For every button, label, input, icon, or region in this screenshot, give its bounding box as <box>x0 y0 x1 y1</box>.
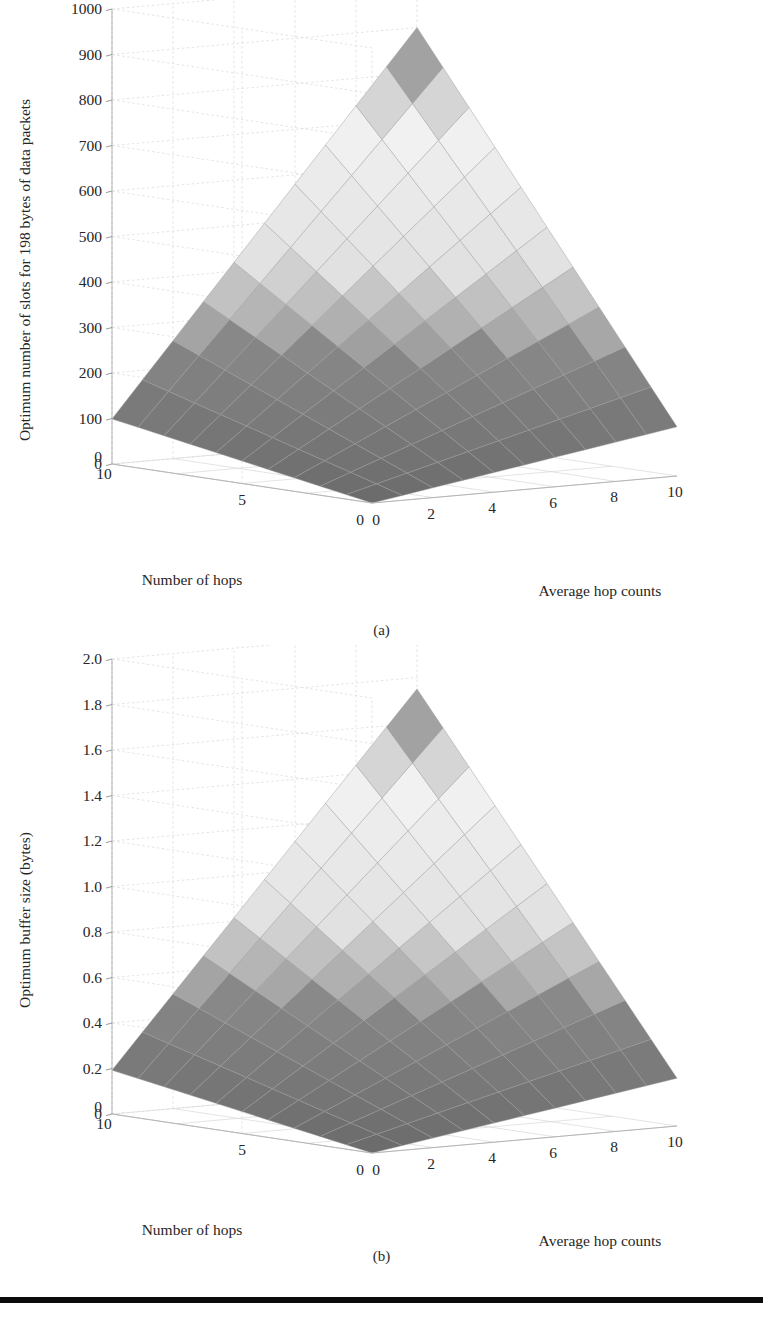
surface-plot-a: 0100200300400500600700800900100002468100… <box>0 0 763 660</box>
z-tick-mark <box>106 932 112 934</box>
x-axis-title: Average hop counts <box>539 1232 662 1249</box>
z-tick-mark <box>106 750 112 752</box>
z-tick-mark <box>106 55 112 57</box>
x-tick-label: 0 <box>372 511 380 528</box>
surface-mesh <box>112 28 677 504</box>
grid-line <box>112 0 417 9</box>
z-origin-tick-label: 0 <box>94 448 102 465</box>
z-tick-label: 1000 <box>71 0 102 17</box>
y-tick-label: 0 <box>356 1161 364 1178</box>
x-tick-label: 2 <box>427 505 435 522</box>
y-tick-label: 0 <box>356 511 364 528</box>
z-tick-mark <box>106 282 112 284</box>
z-tick-label: 500 <box>79 228 103 245</box>
surface-mesh <box>112 689 677 1153</box>
z-tick-label: 200 <box>79 364 103 381</box>
z-tick-label: 300 <box>79 319 103 336</box>
z-tick-mark <box>106 328 112 330</box>
z-tick-mark <box>106 146 112 148</box>
z-tick-label: 100 <box>79 410 103 427</box>
x-tick-label: 10 <box>667 483 683 500</box>
z-tick-label: 900 <box>79 46 103 63</box>
x-tick-label: 0 <box>372 1161 380 1178</box>
grid-line <box>112 645 417 659</box>
z-axis-title: Optimum buffer size (bytes) <box>16 832 34 1008</box>
panel-b: 00.20.40.60.81.01.21.41.61.82.0024681005… <box>0 645 763 1285</box>
x-tick-label: 8 <box>610 488 618 505</box>
z-tick-label: 800 <box>79 91 103 108</box>
y-tick-label: 5 <box>238 491 246 508</box>
z-tick-mark <box>106 796 112 798</box>
z-tick-mark <box>106 978 112 980</box>
y-tick-label: 10 <box>96 465 112 482</box>
z-tick-label: 0.8 <box>83 923 103 940</box>
x-tick-label: 8 <box>610 1138 618 1155</box>
y-axis-title: Number of hops <box>142 571 243 588</box>
x-axis-title: Average hop counts <box>539 582 662 599</box>
z-tick-label: 400 <box>79 273 103 290</box>
x-tick-label: 2 <box>427 1155 435 1172</box>
x-tick-label: 6 <box>549 1144 557 1161</box>
z-tick-label: 1.6 <box>83 741 103 758</box>
z-tick-label: 700 <box>79 137 103 154</box>
z-origin-tick-label: 0 <box>94 1098 102 1115</box>
subfigure-caption-a: (a) <box>0 622 763 639</box>
subfigure-caption-b: (b) <box>0 1248 763 1265</box>
z-tick-mark <box>106 9 112 11</box>
z-tick-label: 2.0 <box>83 650 103 667</box>
x-tick-label: 4 <box>488 499 496 516</box>
z-tick-label: 1.8 <box>83 696 103 713</box>
x-tick-label: 10 <box>667 1133 683 1150</box>
z-tick-mark <box>106 100 112 102</box>
figure-page: 0100200300400500600700800900100002468100… <box>0 0 763 1320</box>
z-tick-mark <box>106 705 112 707</box>
grid-line <box>112 28 417 55</box>
z-tick-mark <box>106 841 112 843</box>
surface-plot-b: 00.20.40.60.81.01.21.41.61.82.0024681005… <box>0 645 763 1285</box>
z-tick-label: 0.4 <box>83 1014 103 1031</box>
y-tick-label: 5 <box>238 1141 246 1158</box>
z-tick-label: 0.6 <box>83 969 103 986</box>
z-tick-label: 0.2 <box>83 1060 102 1077</box>
z-tick-label: 1.4 <box>83 787 103 804</box>
axis-multiplier: × 10 <box>124 645 152 646</box>
z-tick-mark <box>106 1023 112 1025</box>
panel-a: 0100200300400500600700800900100002468100… <box>0 0 763 660</box>
z-tick-label: 600 <box>79 182 103 199</box>
grid-line <box>112 678 417 705</box>
x-tick-label: 6 <box>549 494 557 511</box>
z-tick-mark <box>106 659 112 661</box>
z-tick-mark <box>106 1069 112 1071</box>
z-tick-mark <box>106 373 112 375</box>
bottom-rule-divider <box>0 1297 763 1303</box>
z-tick-mark <box>106 191 112 193</box>
z-tick-label: 1.2 <box>83 832 102 849</box>
z-tick-mark <box>106 887 112 889</box>
z-axis-title: Optimum number of slots for 198 bytes of… <box>16 99 33 441</box>
z-tick-mark <box>106 419 112 421</box>
y-axis-title: Number of hops <box>142 1221 243 1238</box>
x-tick-label: 4 <box>488 1149 496 1166</box>
y-tick-label: 10 <box>96 1115 112 1132</box>
z-tick-label: 1.0 <box>83 878 103 895</box>
z-tick-mark <box>106 237 112 239</box>
